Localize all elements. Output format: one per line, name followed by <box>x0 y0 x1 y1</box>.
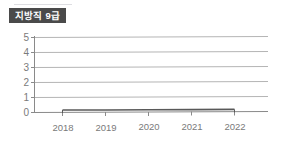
gridline-y4 <box>34 52 268 53</box>
gridline-y3 <box>34 67 268 68</box>
x-tick-label-2021: 2021 <box>181 121 202 132</box>
x-tick-label-2019: 2019 <box>95 122 116 133</box>
x-tick-label-2022: 2022 <box>224 121 245 132</box>
chart-page: 지방직 9급 <box>0 0 292 146</box>
y-tick-label-2: 2 <box>23 77 29 88</box>
gridlines <box>34 37 268 98</box>
y-axis-ticks <box>31 38 35 113</box>
x-axis-line <box>34 112 268 113</box>
y-tick-label-1: 1 <box>23 92 29 103</box>
x-axis-tick-labels: 2018 2019 2020 2021 2022 <box>52 121 245 133</box>
x-tick-label-2018: 2018 <box>52 122 73 133</box>
y-tick-label-3: 3 <box>23 62 29 73</box>
y-tick-label-5: 5 <box>23 32 29 43</box>
gridline-y5 <box>34 37 268 38</box>
gridline-y2 <box>34 82 268 83</box>
x-tick-label-2020: 2020 <box>138 121 159 132</box>
chart-canvas: 5 4 3 2 1 0 2018 2019 2020 2021 <box>0 0 292 146</box>
y-axis-tick-labels: 5 4 3 2 1 0 <box>23 32 29 118</box>
series-line-jibangjik-9geup <box>63 109 235 110</box>
y-tick-label-0: 0 <box>23 107 29 118</box>
y-tick-label-4: 4 <box>23 47 29 58</box>
gridline-y1 <box>34 97 268 98</box>
